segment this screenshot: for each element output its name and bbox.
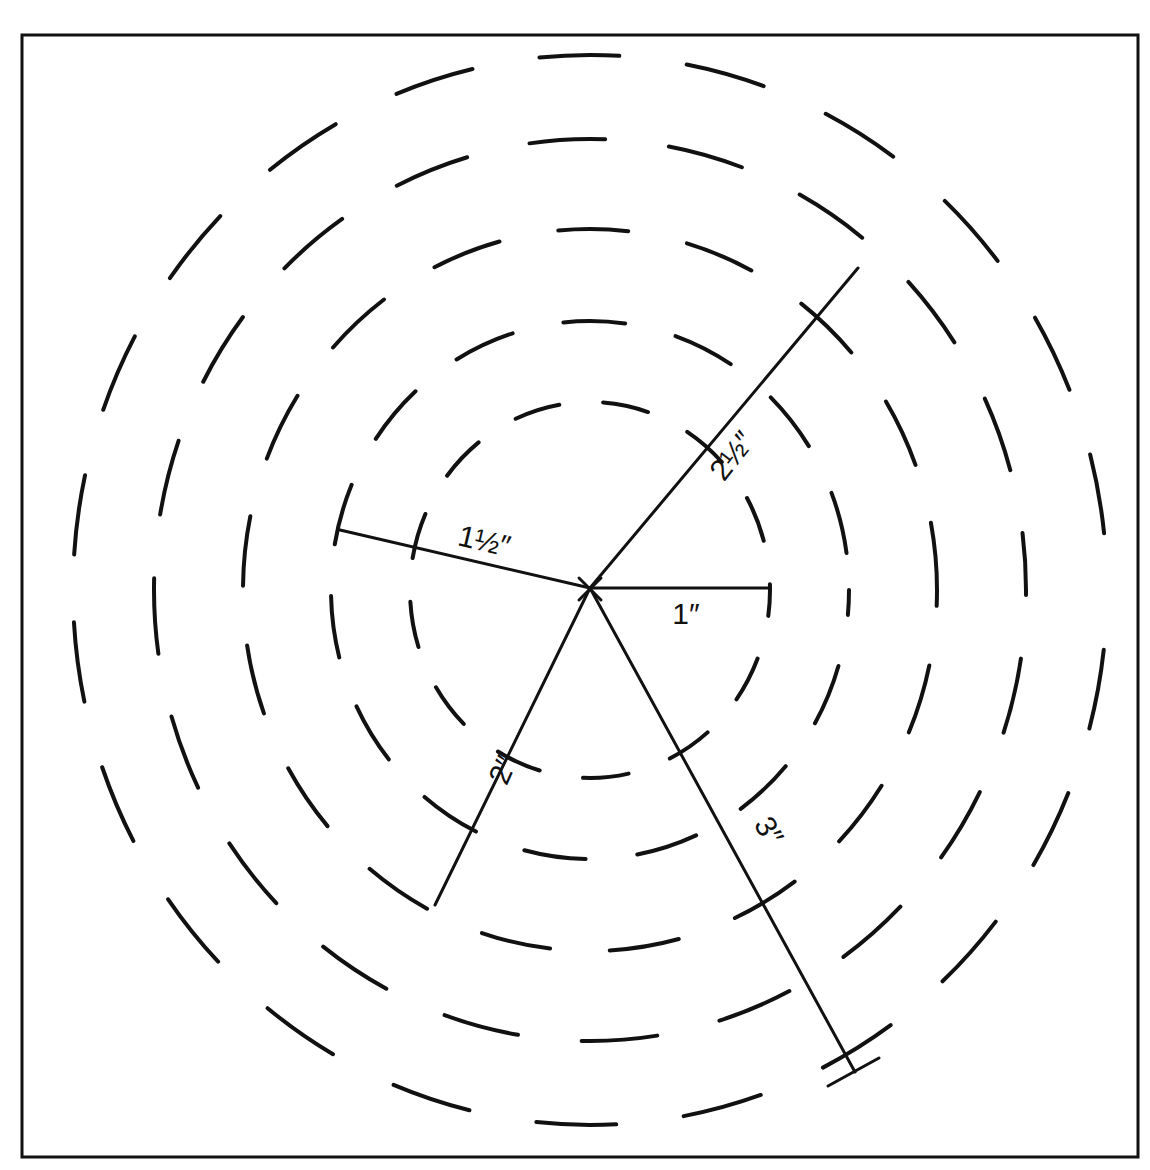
diagram-frame xyxy=(22,35,1138,1157)
radius-label: 2″ xyxy=(482,750,523,789)
radius-labels: 1″1½″2½″2″3″ xyxy=(455,424,790,851)
radius-label: 1½″ xyxy=(455,519,514,563)
radius-line-5 xyxy=(590,588,855,1072)
radius-label: 1″ xyxy=(672,597,700,630)
radius-label: 2½″ xyxy=(703,424,761,486)
radius-label: 3″ xyxy=(748,811,790,851)
radius-line-3 xyxy=(590,268,858,588)
radius-lines xyxy=(340,268,879,1086)
concentric-circles-diagram: 1″1½″2½″2″3″ xyxy=(0,0,1150,1170)
